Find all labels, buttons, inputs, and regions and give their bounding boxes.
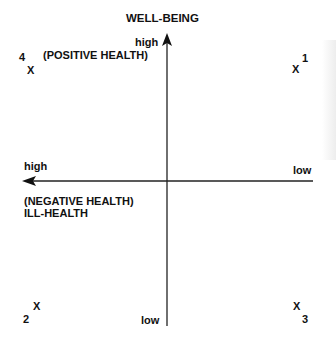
horizontal-low-label: low	[293, 164, 311, 176]
diagram-title: WELL-BEING	[126, 12, 199, 24]
horizontal-high-label: high	[24, 160, 47, 172]
point-1-number: 1	[302, 52, 308, 64]
ill-health-caption: ILL-HEALTH	[24, 207, 88, 219]
point-1-marker: X	[292, 63, 299, 75]
point-3-marker: X	[293, 300, 300, 312]
point-3-number: 3	[302, 313, 308, 325]
negative-health-caption: (NEGATIVE HEALTH)	[24, 195, 134, 207]
vertical-low-label: low	[141, 314, 159, 326]
positive-health-caption: (POSITIVE HEALTH)	[43, 49, 148, 61]
point-2-number: 2	[23, 313, 29, 325]
point-4-number: 4	[19, 51, 25, 63]
vertical-high-label: high	[135, 36, 158, 48]
point-4-marker: X	[27, 64, 34, 76]
point-2-marker: X	[33, 300, 40, 312]
